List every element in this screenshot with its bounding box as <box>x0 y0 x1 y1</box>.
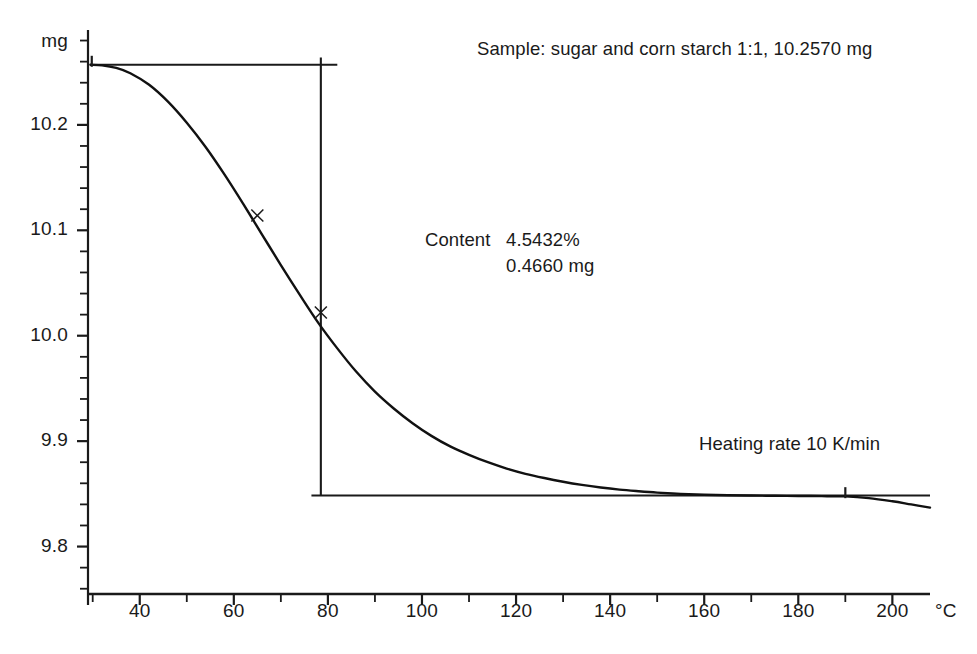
x-axis-tick-label: 200 <box>852 600 932 622</box>
tga-plot <box>0 0 977 654</box>
x-axis-tick-label: 80 <box>288 600 368 622</box>
x-axis-tick-label: 40 <box>100 600 180 622</box>
heating-rate-annotation: Heating rate 10 K/min <box>699 433 880 455</box>
sample-annotation: Sample: sugar and corn starch 1:1, 10.25… <box>477 38 872 60</box>
y-axis-tick-label: 10.1 <box>4 218 68 240</box>
x-axis-tick-label: 160 <box>664 600 744 622</box>
content-label: Content <box>425 229 491 251</box>
y-axis-tick-label: 10.0 <box>4 324 68 346</box>
x-axis-tick-label: 60 <box>194 600 274 622</box>
x-axis-tick-label: 180 <box>758 600 838 622</box>
x-axis-tick-label: 140 <box>570 600 650 622</box>
content-mass-value: 0.4660 mg <box>506 255 594 277</box>
x-axis-tick-label: 120 <box>476 600 556 622</box>
x-axis-unit-label: °C <box>935 600 957 622</box>
y-axis-tick-label: 9.8 <box>4 535 68 557</box>
tga-chart-page: mg 10.210.110.09.99.8 406080100120140160… <box>0 0 977 654</box>
y-axis-tick-label: 9.9 <box>4 429 68 451</box>
content-percent-value: 4.5432% <box>506 229 580 251</box>
x-axis-tick-label: 100 <box>382 600 462 622</box>
y-axis-unit-label: mg <box>14 30 68 52</box>
y-axis-tick-label: 10.2 <box>4 113 68 135</box>
